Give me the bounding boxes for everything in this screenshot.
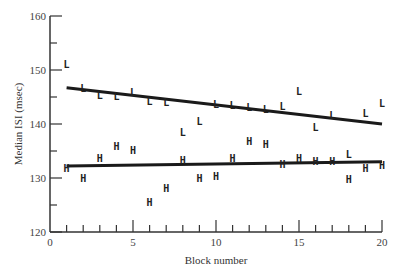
x-tick-label: 5 <box>130 236 136 248</box>
data-point-l: L <box>97 90 103 101</box>
data-point-l: L <box>64 59 70 70</box>
scatter-chart: 12013014015016005101520 LLLLLLLLLLLLLLLL… <box>0 0 400 271</box>
data-point-h: H <box>130 145 136 156</box>
data-point-h: H <box>230 153 236 164</box>
data-point-l: L <box>230 100 236 111</box>
data-point-l: L <box>246 102 252 113</box>
data-point-h: H <box>296 153 302 164</box>
data-point-l: L <box>213 99 219 110</box>
data-point-l: L <box>180 127 186 138</box>
x-tick-label: 10 <box>211 236 223 248</box>
data-point-h: H <box>64 163 70 174</box>
data-point-l: L <box>379 98 385 109</box>
data-point-l: L <box>263 104 269 115</box>
data-point-h: H <box>147 197 153 208</box>
data-point-l: L <box>346 149 352 160</box>
data-points: LLLLLLLLLLLLLLLLLLLLHHHHHHHHHHHHHHHHHHHH <box>64 59 385 208</box>
data-point-l: L <box>313 122 319 133</box>
data-point-h: H <box>113 141 119 152</box>
x-axis-label: Block number <box>185 254 248 266</box>
data-point-h: H <box>196 173 202 184</box>
data-point-h: H <box>263 139 269 150</box>
y-tick-label: 160 <box>30 10 47 22</box>
data-point-h: H <box>379 160 385 171</box>
data-point-l: L <box>362 108 368 119</box>
data-point-l: L <box>113 91 119 102</box>
data-point-l: L <box>196 116 202 127</box>
data-point-l: L <box>130 87 136 98</box>
data-point-h: H <box>246 136 252 147</box>
data-point-h: H <box>163 183 169 194</box>
data-point-h: H <box>362 163 368 174</box>
data-point-h: H <box>313 156 319 167</box>
y-axis-label: Median ISI (msec) <box>12 82 25 165</box>
axes: 12013014015016005101520 <box>30 10 389 248</box>
data-point-l: L <box>296 86 302 97</box>
data-point-l: L <box>329 110 335 121</box>
y-tick-label: 140 <box>30 118 47 130</box>
data-point-l: L <box>80 83 86 94</box>
data-point-h: H <box>180 155 186 166</box>
x-tick-label: 20 <box>377 236 389 248</box>
data-point-h: H <box>329 156 335 167</box>
data-point-l: L <box>163 97 169 108</box>
data-point-l: L <box>279 101 285 112</box>
data-point-h: H <box>346 174 352 185</box>
data-point-h: H <box>213 171 219 182</box>
data-point-h: H <box>80 173 86 184</box>
data-point-h: H <box>97 153 103 164</box>
x-tick-label: 0 <box>47 236 53 248</box>
y-tick-label: 130 <box>30 172 47 184</box>
y-tick-label: 120 <box>30 226 47 238</box>
data-point-l: L <box>147 96 153 107</box>
y-tick-label: 150 <box>30 64 47 76</box>
x-tick-label: 15 <box>294 236 306 248</box>
data-point-h: H <box>279 159 285 170</box>
